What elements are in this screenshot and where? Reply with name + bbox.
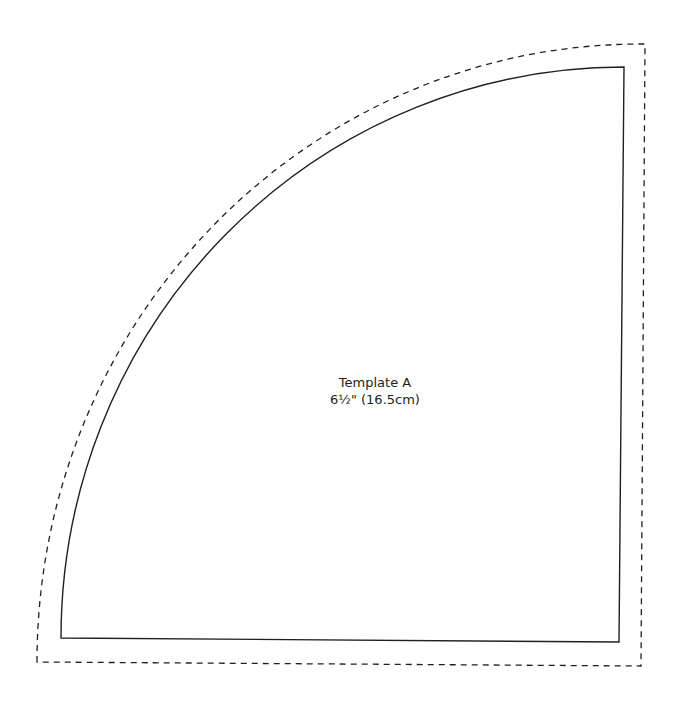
template-shape-svg <box>0 0 678 711</box>
template-label: Template A 6½" (16.5cm) <box>300 374 450 408</box>
template-size: 6½" (16.5cm) <box>300 391 450 408</box>
template-cut-outline <box>61 67 624 642</box>
template-title: Template A <box>300 374 450 391</box>
template-canvas: Template A 6½" (16.5cm) <box>0 0 678 711</box>
seam-allowance-dashed-outline <box>37 44 645 666</box>
